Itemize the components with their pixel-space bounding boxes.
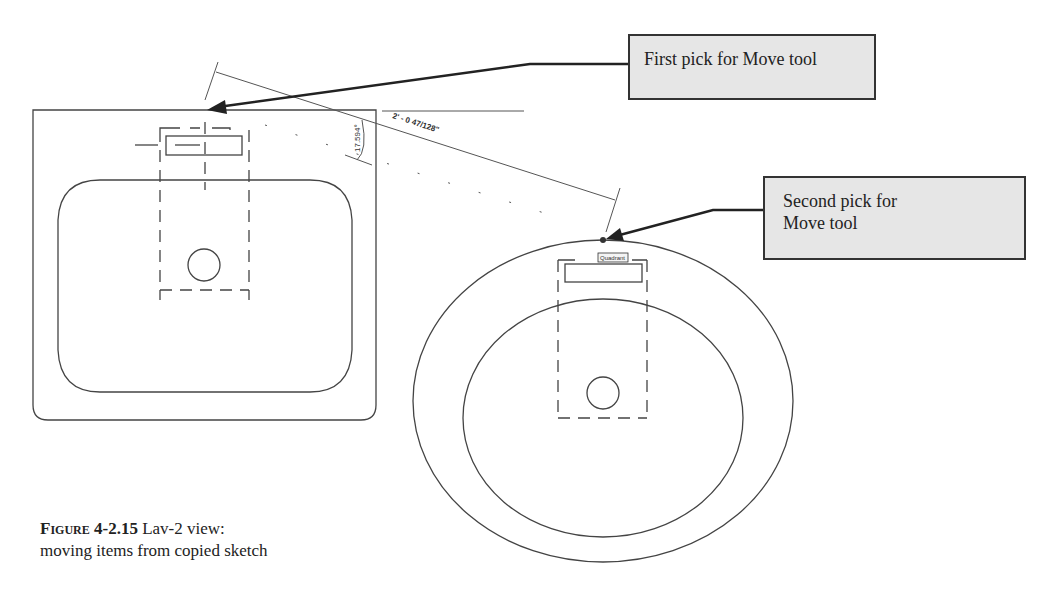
figure-label: Figure 4-2.15 — [40, 519, 138, 538]
leader-arrow-first-pick — [218, 64, 628, 107]
callout-first-pick-text: First pick for Move tool — [644, 49, 817, 69]
leader-arrow-second-pick — [616, 210, 763, 236]
callout-first-pick: First pick for Move tool — [628, 34, 876, 100]
callout-second-pick: Second pick for Move tool — [763, 176, 1026, 260]
quadrant-snap-tooltip: Quadrant — [598, 253, 628, 262]
caption-line2: moving items from copied sketch — [40, 540, 268, 562]
cad-drawing: 2' - 0 47/128" 17.594° Quadrant — [0, 0, 1055, 606]
oval-lavatory — [413, 240, 793, 562]
svg-text:Quadrant: Quadrant — [600, 255, 625, 261]
caption-line1: Lav-2 view: — [138, 519, 225, 538]
dimension-angle-label: 17.594° — [353, 124, 362, 152]
aligned-dimension — [205, 62, 620, 232]
arrowhead-icon — [606, 228, 624, 241]
callout-second-pick-line2: Move tool — [783, 212, 1024, 234]
quadrant-snap-marker — [600, 237, 606, 243]
callout-second-pick-line1: Second pick for — [783, 190, 1024, 212]
arrowhead-icon — [207, 100, 227, 114]
figure-caption: Figure 4-2.15 Lav-2 view: moving items f… — [40, 518, 268, 562]
rectangular-lavatory — [33, 110, 376, 420]
